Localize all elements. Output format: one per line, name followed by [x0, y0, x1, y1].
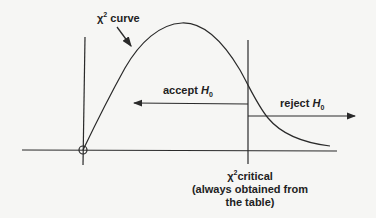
accept-arrow — [134, 103, 248, 104]
curve-pointer-arrow — [117, 27, 131, 46]
reject-h0-label: reject H0 — [280, 97, 324, 111]
accept-h0-label: accept H0 — [163, 84, 213, 98]
critical-note-line1: (always obtained from — [190, 183, 310, 196]
critical-note-line2: the table) — [190, 196, 310, 209]
chi-square-diagram: χ2 curve accept H0 reject H0 χ2critical … — [0, 0, 376, 218]
curve-label: χ2 curve — [97, 11, 140, 24]
critical-value-caption: χ2critical (always obtained from the tab… — [190, 166, 310, 209]
x-axis — [22, 150, 337, 151]
critical-label: χ2critical — [190, 166, 310, 183]
